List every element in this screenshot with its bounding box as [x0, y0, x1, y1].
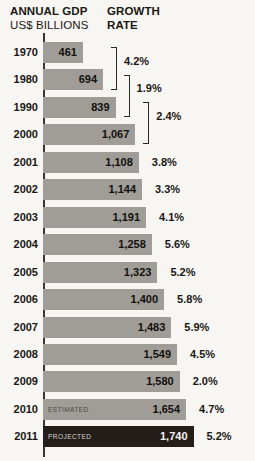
gdp-growth-chart: ANNUAL GDP US$ BILLIONS GROWTH RATE 1970…	[0, 0, 255, 461]
bar-value-label: 1,654	[153, 399, 181, 420]
bar-value-label: 1,580	[146, 371, 174, 392]
year-label: 2009	[0, 375, 38, 387]
gdp-bar: 1,400	[43, 289, 164, 310]
growth-rate-label: 3.8%	[152, 152, 177, 173]
bar-value-label: 1,323	[124, 262, 152, 283]
decade-bracket	[124, 75, 130, 118]
bar-value-label: 1,400	[131, 289, 159, 310]
bar-value-label: 1,549	[143, 344, 171, 365]
growth-rate-label: 4.5%	[190, 344, 215, 365]
year-label: 2008	[0, 348, 38, 360]
gdp-bar: 1,323	[43, 262, 157, 283]
decade-growth-label: 1.9%	[137, 82, 162, 94]
gdp-bar: 1,580	[43, 371, 180, 392]
year-label: 2004	[0, 238, 38, 250]
bar-value-label: 1,258	[118, 234, 146, 255]
gdp-bar: 1,483	[43, 317, 171, 338]
year-label: 2002	[0, 183, 38, 195]
bar-value-label: 1,483	[138, 317, 166, 338]
gdp-bar: 839	[43, 97, 116, 118]
year-label: 2011	[0, 430, 38, 442]
bar-value-label: 1,144	[108, 179, 136, 200]
year-label: 1970	[0, 46, 38, 58]
year-label: 2006	[0, 293, 38, 305]
left-header-title: ANNUAL GDP	[10, 5, 87, 19]
bar-note-label: PROJECTED	[48, 426, 91, 447]
bar-value-label: 461	[59, 42, 77, 63]
year-label: 1990	[0, 101, 38, 113]
decade-growth-label: 4.2%	[124, 55, 149, 67]
year-label: 2007	[0, 321, 38, 333]
left-header-subtitle: US$ BILLIONS	[10, 19, 89, 33]
gdp-bar: 1,144	[43, 179, 142, 200]
bar-value-label: 839	[91, 97, 109, 118]
growth-rate-label: 3.3%	[155, 179, 180, 200]
bar-value-label: 1,740	[160, 426, 188, 447]
gdp-bar: 1,067	[43, 124, 135, 145]
year-label: 2000	[0, 128, 38, 140]
growth-rate-label: 2.0%	[193, 371, 218, 392]
year-label: 1980	[0, 73, 38, 85]
growth-rate-label: 5.9%	[184, 317, 209, 338]
growth-rate-label: 5.2%	[170, 262, 195, 283]
growth-rate-label: 5.6%	[165, 234, 190, 255]
year-label: 2005	[0, 266, 38, 278]
gdp-bar: 694	[43, 69, 103, 90]
growth-rate-label: 4.1%	[159, 207, 184, 228]
year-label: 2003	[0, 211, 38, 223]
gdp-bar: 1,191	[43, 207, 146, 228]
bar-value-label: 1,067	[102, 124, 130, 145]
gdp-bar: 1,108	[43, 152, 139, 173]
growth-rate-label: 5.2%	[207, 426, 232, 447]
growth-rate-label: 5.8%	[177, 289, 202, 310]
year-label: 2010	[0, 403, 38, 415]
bar-value-label: 694	[79, 69, 97, 90]
decade-bracket	[111, 47, 117, 90]
gdp-bar: 1,654ESTIMATED	[43, 399, 186, 420]
gdp-bar: 1,740PROJECTED	[43, 426, 194, 447]
year-label: 2001	[0, 156, 38, 168]
right-header-title: GROWTH	[107, 5, 160, 19]
bar-value-label: 1,191	[112, 207, 140, 228]
bar-note-label: ESTIMATED	[48, 399, 89, 420]
bar-value-label: 1,108	[105, 152, 133, 173]
decade-growth-label: 2.4%	[156, 110, 181, 122]
gdp-bar: 461	[43, 42, 83, 63]
gdp-bar: 1,258	[43, 234, 152, 255]
gdp-bar: 1,549	[43, 344, 177, 365]
growth-rate-label: 4.7%	[199, 399, 224, 420]
right-header-subtitle: RATE	[107, 19, 138, 33]
decade-bracket	[143, 102, 149, 144]
